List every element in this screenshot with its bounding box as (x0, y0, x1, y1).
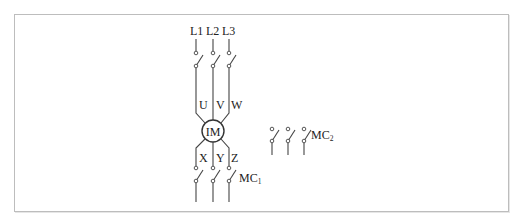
label-l2: L2 (206, 24, 219, 38)
main-switch-icon (194, 39, 236, 68)
label-l1: L1 (190, 24, 203, 38)
motor-wiring-diagram: L1 L2 L3 U V W IM X Y Z (0, 0, 515, 222)
terminal-w: W (231, 98, 243, 112)
terminal-u: U (199, 98, 208, 112)
label-l3: L3 (222, 24, 235, 38)
motor-label: IM (206, 125, 221, 139)
contactor-mc2-icon (270, 127, 311, 155)
contactor-mc1-label: MC1 (239, 171, 262, 186)
terminal-y: Y (216, 151, 225, 165)
terminal-v: V (216, 98, 225, 112)
motor-supply-wires (196, 68, 229, 123)
motor-icon: IM (202, 120, 224, 142)
terminal-x: X (199, 151, 208, 165)
contactor-mc1-icon (194, 166, 236, 202)
contactor-mc2-label: MC2 (311, 128, 334, 143)
terminal-z: Z (231, 151, 238, 165)
